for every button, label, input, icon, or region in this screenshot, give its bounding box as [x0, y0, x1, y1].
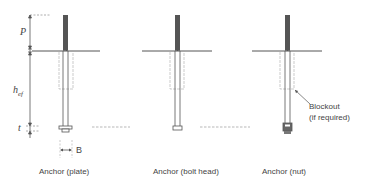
dimension-lines — [26, 15, 50, 138]
anchor-plate-drawing — [32, 15, 130, 158]
dimension-p-label: P — [20, 26, 26, 37]
caption-anchor-plate: Anchor (plate) — [39, 167, 89, 176]
anchor-bolt-head-drawing — [142, 15, 250, 130]
dimension-t-label: t — [18, 122, 21, 133]
caption-anchor-bolt-head: Anchor (bolt head) — [153, 167, 219, 176]
caption-anchor-nut: Anchor (nut) — [262, 167, 306, 176]
blockout-line1: Blockout — [309, 101, 350, 112]
blockout-label: Blockout (if required) — [309, 101, 350, 123]
dimension-b-label: B — [76, 145, 82, 155]
dimension-hef-label: hef — [13, 84, 23, 98]
blockout-line2: (if required) — [309, 112, 350, 123]
hef-sub: ef — [18, 90, 23, 98]
anchor-diagram — [0, 0, 370, 188]
